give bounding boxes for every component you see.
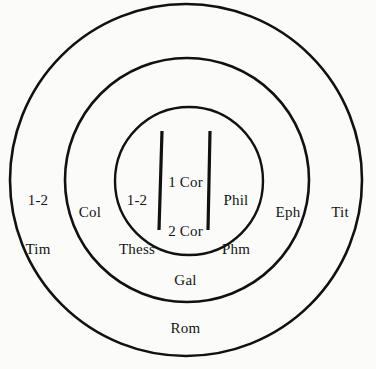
label-text: Thess (114, 241, 160, 257)
label-text: Gal (163, 272, 208, 288)
label-text: 1-2 (114, 192, 160, 208)
label-inner-circle-center: 1 Cor 2 Cor Gal Rom (163, 142, 208, 369)
label-text: Tim (14, 241, 62, 257)
label-text: Col (68, 204, 112, 220)
label-middle-ring-right: Eph (266, 172, 310, 253)
label-text: Tit (316, 204, 364, 220)
label-text: 1 Cor (163, 174, 208, 190)
label-outer-ring-right: Tit (316, 172, 364, 253)
label-outer-ring-left: 1-2 Tim (14, 160, 62, 290)
divider-right-line (208, 131, 210, 230)
label-text: Phm (213, 241, 259, 257)
label-inner-circle-right: Phil Phm (213, 160, 259, 290)
label-middle-ring-left: Col (68, 172, 112, 253)
label-text: 1-2 (14, 192, 62, 208)
label-text: Phil (213, 192, 259, 208)
label-text: 2 Cor (163, 223, 208, 239)
diagram-page: 1-2 Tim Tit Col Eph 1-2 Thess 1 Cor 2 Co… (0, 0, 376, 369)
label-text: Eph (266, 204, 310, 220)
label-inner-circle-left: 1-2 Thess (114, 160, 160, 290)
label-text: Rom (163, 320, 208, 336)
